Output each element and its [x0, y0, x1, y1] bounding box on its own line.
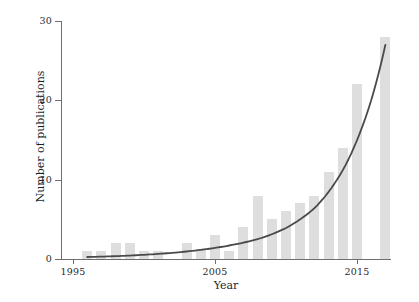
y-axis-line	[61, 21, 62, 260]
bar	[224, 251, 234, 259]
y-axis-tick-label: 30	[0, 16, 52, 26]
publications-chart-figure: 0102030 199520052015 Number of publicati…	[0, 0, 419, 302]
bar	[281, 211, 291, 259]
y-axis-tick-mark	[55, 100, 61, 101]
bar	[125, 243, 135, 259]
bar	[338, 148, 348, 259]
bar	[352, 84, 362, 259]
bar	[96, 251, 106, 259]
bar	[253, 196, 263, 259]
x-axis-tick-label: 1995	[43, 266, 103, 277]
bar	[309, 196, 319, 259]
y-axis-tick-mark	[55, 180, 61, 181]
x-axis-tick-label: 2015	[327, 266, 387, 277]
bar	[82, 251, 92, 259]
plot-area: 0102030 199520052015 Number of publicati…	[0, 0, 419, 302]
y-axis-title: Number of publications	[34, 37, 47, 237]
y-axis-tick-label: 0	[0, 254, 52, 264]
x-axis-tick-mark	[215, 259, 216, 264]
x-axis-tick-mark	[73, 259, 74, 264]
bar	[267, 219, 277, 259]
y-axis-tick-mark	[55, 259, 61, 260]
bar	[324, 172, 334, 259]
bar	[238, 227, 248, 259]
bar	[153, 251, 163, 259]
x-axis-tick-label: 2005	[185, 266, 245, 277]
bar	[380, 37, 390, 259]
bar	[196, 251, 206, 259]
bar	[210, 235, 220, 259]
bar	[182, 243, 192, 259]
bar	[295, 203, 305, 259]
bar	[111, 243, 121, 259]
x-axis-tick-mark	[357, 259, 358, 264]
x-axis-line	[61, 259, 391, 260]
x-axis-title: Year	[61, 279, 391, 292]
bar	[139, 251, 149, 259]
y-axis-tick-mark	[55, 21, 61, 22]
